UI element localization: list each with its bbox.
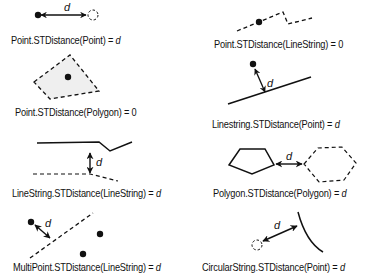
- target-point-dashed: [88, 10, 98, 20]
- label-text: CircularString.STDistance(Point) =: [202, 261, 340, 273]
- panel-multipoint-linestring-figure: d: [28, 213, 103, 258]
- label-linestring-point: Linestring.STDistance(Point) = d: [212, 118, 340, 130]
- point-dot: [250, 61, 256, 67]
- distance-label: d: [274, 219, 281, 231]
- linestring-dashed: [237, 12, 312, 31]
- panel-linestring-point-figure: d: [228, 61, 311, 104]
- label-point-polygon: Point.STDistance(Polygon) = 0: [15, 106, 137, 118]
- distance-label: d: [96, 156, 103, 168]
- distance-arrow: [255, 69, 265, 92]
- target-point-dashed: [252, 240, 262, 250]
- point-dot: [65, 74, 71, 80]
- label-text: MultiPoint.STDistance(LineString) =: [13, 261, 156, 273]
- label-text: Point.STDistance(LineString) =: [214, 38, 338, 50]
- distance-label: d: [64, 1, 71, 13]
- label-text: Point.STDistance(Polygon) =: [15, 106, 132, 118]
- label-text: Linestring.STDistance(Point) =: [212, 118, 335, 130]
- panel-linestring-linestring-figure: d: [33, 142, 132, 181]
- label-linestring-linestring: LineString.STDistance(LineString) = d: [12, 187, 161, 199]
- hexagon-dashed: [304, 147, 356, 182]
- label-text: Polygon.STDistance(Polygon) =: [213, 187, 342, 199]
- label-result: d: [156, 261, 161, 273]
- point-dot: [97, 231, 103, 237]
- distance-label: d: [286, 150, 293, 162]
- circularstring-arc: [298, 212, 323, 252]
- label-result: d: [156, 187, 161, 199]
- label-result: d: [335, 118, 340, 130]
- linestring-dashed: [33, 174, 118, 181]
- label-result: d: [342, 187, 347, 199]
- panel-point-polygon-figure: [34, 55, 99, 99]
- label-result: 0: [132, 106, 137, 118]
- label-text: Point.STDistance(Point) =: [11, 34, 116, 46]
- label-result: d: [116, 34, 121, 46]
- label-point-linestring: Point.STDistance(LineString) = 0: [214, 38, 343, 50]
- point-dot: [35, 12, 41, 18]
- panel-point-point-figure: d: [35, 1, 98, 20]
- label-result: d: [340, 261, 345, 273]
- label-result: 0: [338, 38, 343, 50]
- label-multipoint-linestring: MultiPoint.STDistance(LineString) = d: [13, 261, 161, 273]
- distance-label: d: [267, 77, 274, 89]
- point-dot: [256, 19, 262, 25]
- label-point-point: Point.STDistance(Point) = d: [11, 34, 121, 46]
- point-dot: [28, 219, 34, 225]
- distance-label: d: [45, 217, 52, 229]
- label-circularstring-point: CircularString.STDistance(Point) = d: [202, 261, 345, 273]
- panel-circularstring-point-figure: d: [252, 212, 323, 252]
- pentagon-solid: [229, 149, 274, 174]
- panel-point-linestring-figure: [237, 12, 312, 31]
- label-polygon-polygon: Polygon.STDistance(Polygon) = d: [213, 187, 346, 199]
- panel-polygon-polygon-figure: d: [229, 147, 356, 182]
- linestring-solid: [37, 142, 132, 151]
- label-text: LineString.STDistance(LineString) =: [12, 187, 156, 199]
- point-dot: [80, 251, 86, 257]
